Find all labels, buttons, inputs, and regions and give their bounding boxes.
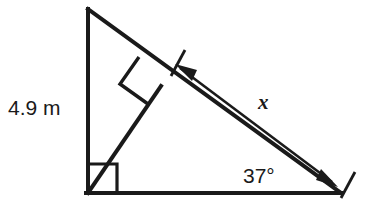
vertical-leg-label: 4.9 m	[8, 97, 61, 118]
geometry-figure: 4.9 m x 37°	[0, 0, 374, 208]
hypotenuse-measure-label: x	[258, 92, 269, 113]
hypotenuse-line	[88, 9, 341, 193]
extension-tick-lower-icon	[341, 172, 355, 198]
right-angle-square-altitude-foot	[120, 57, 148, 104]
altitude-line	[88, 86, 161, 193]
triangle-outline	[86, 9, 341, 193]
base-angle-label: 37°	[243, 165, 275, 186]
